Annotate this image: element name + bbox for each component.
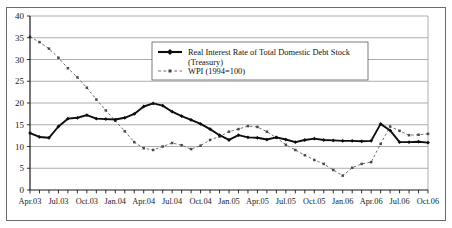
series-real-interest-rate-marker — [104, 117, 108, 121]
legend-label-wpi: WPI (1994=100) — [188, 67, 245, 76]
series-wpi-marker — [142, 147, 145, 150]
series-wpi-marker — [228, 130, 231, 133]
series-real-interest-rate-marker — [360, 139, 364, 143]
series-real-interest-rate-marker — [341, 139, 345, 143]
series-wpi-marker — [256, 126, 259, 129]
series-real-interest-rate — [28, 102, 430, 145]
series-wpi-marker — [124, 130, 127, 133]
series-wpi-marker — [266, 130, 269, 133]
series-wpi-marker — [313, 159, 316, 162]
series-wpi-marker — [199, 144, 202, 147]
series-wpi-marker — [247, 125, 250, 128]
series-wpi-marker — [304, 154, 307, 157]
series-wpi-marker — [427, 133, 430, 136]
series-real-interest-rate-marker — [417, 140, 421, 144]
y-tick-label: 40 — [15, 11, 25, 21]
y-tick-label: 30 — [15, 55, 25, 65]
series-wpi-marker — [171, 142, 174, 145]
series-wpi-marker — [379, 143, 382, 146]
series-wpi-marker — [294, 149, 297, 152]
chart-legend: Real Interest Rate of Total Domestic Deb… — [152, 42, 368, 80]
y-axis-tick-labels: 0510152025303540 — [15, 11, 30, 195]
y-tick-label: 20 — [15, 98, 25, 108]
x-tick-label: Jul.04 — [162, 197, 183, 206]
series-wpi-marker — [161, 145, 164, 148]
series-wpi-marker — [38, 41, 41, 44]
y-tick-label: 25 — [15, 76, 25, 86]
series-wpi-marker — [389, 125, 392, 128]
series-wpi-marker — [95, 98, 98, 101]
series-wpi-marker — [105, 109, 108, 112]
x-tick-label: Jul.03 — [48, 197, 68, 206]
chart-root: 0510152025303540 Apr.03Jul.03Oct.03Jan.0… — [0, 0, 452, 228]
series-wpi-marker — [152, 149, 155, 152]
series-real-interest-rate-marker — [113, 118, 117, 122]
series-wpi-marker — [370, 161, 373, 164]
series-wpi-marker — [285, 144, 288, 147]
series-wpi-marker — [48, 47, 51, 50]
legend-marker-square-icon — [169, 70, 172, 73]
series-wpi-marker — [67, 67, 70, 70]
series-real-interest-rate-marker — [312, 137, 316, 141]
x-tick-label: Jul.06 — [390, 197, 410, 206]
x-tick-label: Apr.06 — [360, 197, 383, 206]
y-tick-label: 5 — [20, 163, 25, 173]
x-tick-label: Jul.05 — [276, 197, 296, 206]
series-wpi-marker — [209, 139, 212, 142]
x-tick-label: Apr.04 — [132, 197, 156, 206]
series-wpi-marker — [417, 134, 420, 137]
y-tick-label: 10 — [15, 142, 25, 152]
series-wpi-marker — [341, 174, 344, 177]
series-wpi-marker — [190, 148, 193, 151]
x-tick-label: Oct.03 — [76, 197, 98, 206]
series-wpi-marker — [332, 169, 335, 172]
series-wpi-marker — [76, 76, 79, 79]
gridlines — [30, 16, 428, 168]
series-real-interest-rate-line — [30, 103, 428, 142]
series-real-interest-rate-marker — [256, 136, 260, 140]
series-real-interest-rate-marker — [426, 141, 430, 145]
series-real-interest-rate-marker — [265, 138, 269, 142]
x-tick-label: Apr.03 — [19, 197, 42, 206]
series-wpi-marker — [351, 167, 354, 170]
series-real-interest-rate-marker — [246, 135, 250, 139]
x-tick-label: Apr.05 — [246, 197, 269, 206]
series-wpi-marker — [57, 57, 60, 60]
series-wpi-marker — [323, 163, 326, 166]
x-axis-tick-labels: Apr.03Jul.03Oct.03Jan.04Apr.04Jul.04Oct.… — [19, 197, 440, 206]
x-tick-label: Jan.06 — [332, 197, 353, 206]
x-tick-label: Jan.04 — [105, 197, 127, 206]
y-tick-label: 35 — [15, 33, 25, 43]
series-wpi-marker — [408, 134, 411, 137]
series-real-interest-rate-marker — [322, 138, 326, 142]
series-wpi-marker — [398, 130, 401, 133]
legend-label-real-interest-rate-line2: (Treasury) — [188, 58, 223, 67]
chart-canvas: 0510152025303540 Apr.03Jul.03Oct.03Jan.0… — [0, 0, 452, 228]
series-wpi-marker — [180, 144, 183, 147]
x-tick-label: Oct.06 — [417, 197, 439, 206]
legend-label-real-interest-rate: Real Interest Rate of Total Domestic Deb… — [188, 48, 351, 57]
series-real-interest-rate-marker — [303, 138, 307, 142]
y-tick-label: 0 — [20, 185, 25, 195]
x-tick-label: Jan.05 — [218, 197, 239, 206]
series-wpi-marker — [237, 128, 240, 131]
x-tick-label: Oct.05 — [303, 197, 325, 206]
y-tick-label: 15 — [15, 120, 25, 130]
series-wpi-marker — [133, 141, 136, 144]
series-real-interest-rate-marker — [350, 139, 354, 143]
series-wpi-marker — [360, 163, 363, 166]
series-wpi-marker — [86, 87, 89, 90]
x-tick-label: Oct.04 — [189, 197, 212, 206]
series-real-interest-rate-marker — [407, 140, 411, 144]
series-real-interest-rate-marker — [331, 139, 335, 143]
